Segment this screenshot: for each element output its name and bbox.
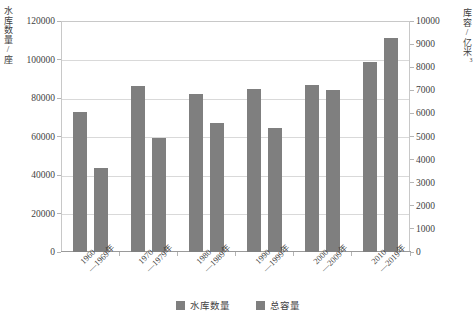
bar <box>326 90 340 252</box>
legend-item[interactable]: 水库数量 <box>176 298 230 312</box>
y-axis-right-tick-mark <box>410 252 414 253</box>
y-axis-right-tick-mark <box>410 90 414 91</box>
y-axis-right-tick-label: 7000 <box>416 85 462 95</box>
y-axis-right-tick-mark <box>410 67 414 68</box>
y-axis-right-tick-label: 4000 <box>416 155 462 165</box>
y-axis-left-tick-mark <box>57 213 61 214</box>
y-axis-right-tick-label: 1000 <box>416 224 462 234</box>
bar <box>363 62 377 252</box>
y-axis-right-tick-label: 2000 <box>416 201 462 211</box>
bars-layer <box>61 21 410 252</box>
y-axis-right-title: 库容/亿米3 <box>461 8 474 72</box>
y-axis-left-tick-mark <box>57 21 61 22</box>
y-axis-right-tick-label: 5000 <box>416 132 462 142</box>
y-axis-left-tick-label: 100000 <box>3 55 55 65</box>
y-axis-left-tick-label: 20000 <box>3 209 55 219</box>
chart-legend: 水库数量总容量 <box>0 298 476 312</box>
x-axis-tick-mark <box>119 252 120 256</box>
legend-label: 总容量 <box>270 298 300 312</box>
bar-chart: 水库数量/座 库容/亿米3 水库数量总容量 020000400006000080… <box>0 0 476 320</box>
y-axis-right-tick-label: 0 <box>416 247 462 257</box>
bar <box>384 38 398 252</box>
x-axis-tick-mark <box>351 252 352 256</box>
bar <box>210 123 224 252</box>
bar <box>247 89 261 252</box>
x-axis-tick-mark <box>293 252 294 256</box>
y-axis-right-tick-label: 9000 <box>416 39 462 49</box>
y-axis-right-tick-mark <box>410 205 414 206</box>
x-axis-tick-mark <box>177 252 178 256</box>
y-axis-right-tick-mark <box>410 44 414 45</box>
y-axis-right-tick-label: 8000 <box>416 62 462 72</box>
y-axis-right-tick-label: 6000 <box>416 108 462 118</box>
y-axis-left-tick-label: 80000 <box>3 93 55 103</box>
y-axis-right-tick-mark <box>410 182 414 183</box>
y-axis-left-tick-mark <box>57 136 61 137</box>
y-axis-left-tick-mark <box>57 252 61 253</box>
legend-label: 水库数量 <box>190 298 230 312</box>
bar <box>305 85 319 252</box>
bar <box>131 86 145 253</box>
y-axis-left-tick-label: 60000 <box>3 132 55 142</box>
y-axis-left-tick-mark <box>57 59 61 60</box>
x-axis-tick-mark <box>410 252 411 256</box>
y-axis-right-title-text: 库容/亿米 <box>462 8 472 57</box>
legend-item[interactable]: 总容量 <box>256 298 300 312</box>
y-axis-left-tick-mark <box>57 98 61 99</box>
y-axis-right-tick-label: 3000 <box>416 178 462 188</box>
y-axis-right-tick-mark <box>410 228 414 229</box>
x-axis-tick-mark <box>235 252 236 256</box>
legend-swatch <box>176 301 185 310</box>
y-axis-left-tick-label: 0 <box>3 247 55 257</box>
y-axis-right-tick-mark <box>410 159 414 160</box>
bar <box>189 94 203 252</box>
y-axis-right-tick-mark <box>410 21 414 22</box>
legend-swatch <box>256 301 265 310</box>
y-axis-right-tick-mark <box>410 113 414 114</box>
y-axis-left-tick-label: 120000 <box>3 16 55 26</box>
bar <box>73 112 87 252</box>
y-axis-right-tick-label: 10000 <box>416 16 462 26</box>
y-axis-left-tick-label: 40000 <box>3 170 55 180</box>
y-axis-right-title-superscript: 3 <box>468 57 474 64</box>
y-axis-right-tick-mark <box>410 136 414 137</box>
bar <box>268 128 282 252</box>
y-axis-left-tick-mark <box>57 175 61 176</box>
